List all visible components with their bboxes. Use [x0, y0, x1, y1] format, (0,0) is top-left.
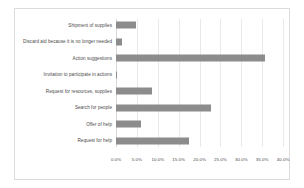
category-label: Action suggestions [15, 56, 116, 61]
chart-card: Shipment of suppliesDiscard aid because … [14, 8, 290, 180]
bar-track [116, 84, 289, 98]
plot-area: Shipment of suppliesDiscard aid because … [15, 9, 289, 179]
x-tick-label: 0.0% [111, 157, 121, 162]
bar-row: Invitation to participate in actions [15, 68, 289, 82]
bar-row: Action suggestions [15, 51, 289, 65]
category-label: Invitation to participate in actions [15, 72, 116, 77]
x-tick-label: 30.0% [235, 157, 248, 162]
bar[interactable] [116, 38, 122, 45]
x-tick-label: 20.0% [193, 157, 206, 162]
bar[interactable] [116, 55, 265, 62]
x-tick-label: 35.0% [256, 157, 269, 162]
category-label: Shipment of supplies [15, 23, 116, 28]
category-label: Search for people [15, 105, 116, 110]
x-tick-label: 15.0% [172, 157, 185, 162]
bar-track [116, 134, 289, 148]
category-label: Discard aid because it is no longer need… [15, 39, 116, 44]
bar-track [116, 117, 289, 131]
bar-track [116, 35, 289, 49]
bar-track [116, 68, 289, 82]
bar[interactable] [116, 121, 141, 128]
bar-row: Request for help [15, 134, 289, 148]
bar-row: Shipment of supplies [15, 18, 289, 32]
bar[interactable] [116, 71, 117, 78]
bar-row: Search for people [15, 101, 289, 115]
bar-track [116, 51, 289, 65]
bar-row: Request for resources, supplies [15, 84, 289, 98]
bar-row: Offer of help [15, 117, 289, 131]
x-axis-tick-labels: 0.0%5.0%10.0%15.0%20.0%25.0%30.0%35.0%40… [116, 157, 283, 167]
category-label: Request for help [15, 138, 116, 143]
x-tick-label: 10.0% [151, 157, 164, 162]
bar-rows: Shipment of suppliesDiscard aid because … [15, 17, 289, 149]
x-tick-label: 25.0% [214, 157, 227, 162]
category-label: Request for resources, supplies [15, 89, 116, 94]
bar-track [116, 101, 289, 115]
x-tick-label: 5.0% [132, 157, 142, 162]
category-label: Offer of help [15, 122, 116, 127]
bar-track [116, 18, 289, 32]
x-tick-label: 40.0% [277, 157, 290, 162]
bar[interactable] [116, 137, 189, 144]
bar-row: Discard aid because it is no longer need… [15, 35, 289, 49]
bar[interactable] [116, 22, 136, 29]
bar[interactable] [116, 104, 211, 111]
bar[interactable] [116, 88, 152, 95]
